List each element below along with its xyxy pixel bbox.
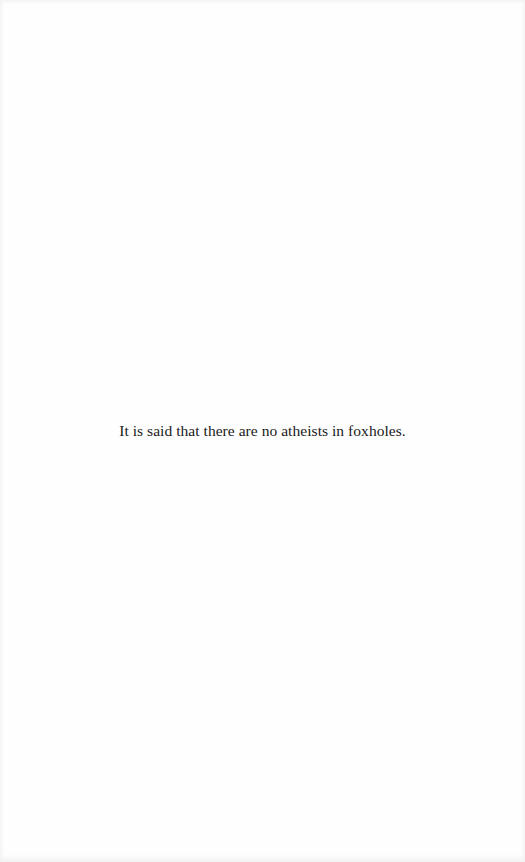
document-page: It is said that there are no atheists in… [0,0,525,862]
page-edge-top [0,0,525,4]
body-paragraph: It is said that there are no atheists in… [0,421,525,441]
page-edge-bottom [0,854,525,862]
